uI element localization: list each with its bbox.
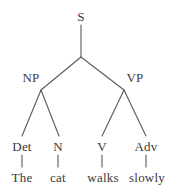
node-s: S <box>77 10 84 23</box>
word-walks: walks <box>87 171 118 184</box>
node-det: Det <box>12 140 31 153</box>
tree-edges-layer <box>0 0 180 195</box>
edge-np-to-det <box>22 90 41 136</box>
node-vp: VP <box>126 71 143 84</box>
edge-s-to-vp <box>81 57 124 90</box>
node-np: NP <box>22 71 39 84</box>
edge-vp-to-adv <box>124 90 146 136</box>
node-n: N <box>53 140 63 153</box>
word-cat: cat <box>50 171 66 184</box>
word-slowly: slowly <box>129 171 165 184</box>
word-the: The <box>12 171 33 184</box>
syntax-tree-figure: S NP VP Det N V Adv The cat walks slowly <box>0 0 180 195</box>
node-adv: Adv <box>135 140 158 153</box>
edge-vp-to-v <box>102 90 124 136</box>
edge-s-to-np <box>41 57 81 90</box>
edge-np-to-n <box>41 90 59 136</box>
node-v: V <box>97 140 107 153</box>
